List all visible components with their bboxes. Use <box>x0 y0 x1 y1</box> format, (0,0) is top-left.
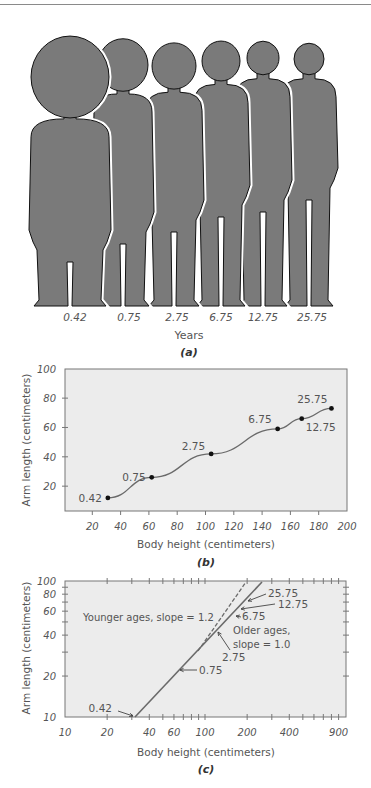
y-tick-label: 40 <box>43 452 56 463</box>
age-label: 2.75 <box>165 311 189 323</box>
panel-b-chart: 20406080100120140160180200204060801000.4… <box>37 364 357 532</box>
age-label: 0.42 <box>63 311 87 323</box>
data-point <box>105 495 110 500</box>
point-label: 6.75 <box>248 413 271 425</box>
panel-a-xlabel: Years <box>173 329 203 342</box>
age-label: 25.75 <box>297 311 327 323</box>
silhouette-age-0.42 <box>29 34 112 306</box>
silhouette-head <box>31 36 109 118</box>
x-tick-label: 400 <box>280 727 299 738</box>
x-tick-label: 120 <box>224 521 243 532</box>
point-label: 0.42 <box>89 702 112 714</box>
silhouette-head <box>247 41 279 75</box>
x-tick-label: 180 <box>309 521 328 532</box>
x-tick-label: 140 <box>253 521 272 532</box>
point-label: 0.75 <box>122 471 145 483</box>
annotation-older-line1: Older ages, <box>233 625 290 636</box>
age-label: 12.75 <box>248 311 278 323</box>
panel-c-xlabel: Body height (centimeters) <box>137 746 275 758</box>
x-tick-label: 900 <box>329 727 348 738</box>
data-point <box>149 475 154 480</box>
point-label: 25.75 <box>268 587 298 599</box>
x-tick-label: 60 <box>143 521 156 532</box>
x-tick-label: 60 <box>168 727 181 738</box>
data-point <box>275 427 280 432</box>
point-label: 0.75 <box>199 664 222 676</box>
data-point <box>299 416 304 421</box>
y-tick-label: 80 <box>43 589 56 600</box>
silhouette-body <box>29 113 111 306</box>
panel-b-plot-area <box>65 369 347 511</box>
silhouette-head <box>152 43 196 89</box>
point-label: 25.75 <box>297 393 327 405</box>
silhouette-head <box>294 43 324 75</box>
x-tick-label: 20 <box>101 727 114 738</box>
data-point <box>329 406 334 411</box>
annotation-younger: Younger ages, slope = 1.2 <box>82 612 214 623</box>
x-tick-label: 160 <box>281 521 300 532</box>
panel-b-ylabel: Arm length (centimeters) <box>20 374 32 507</box>
point-label: 0.42 <box>78 492 101 504</box>
y-tick-label: 10 <box>43 712 56 723</box>
panel-a-age-labels: 0.420.752.756.7512.7525.75 <box>63 311 327 323</box>
y-tick-label: 60 <box>43 606 56 617</box>
y-tick-label: 20 <box>43 671 56 682</box>
x-tick-label: 40 <box>114 521 127 532</box>
x-tick-label: 100 <box>195 727 214 738</box>
y-tick-label: 100 <box>37 576 56 587</box>
panel-b-caption: (b) <box>197 556 215 569</box>
y-tick-label: 60 <box>43 422 56 433</box>
point-label: 12.75 <box>278 598 308 610</box>
panel-c-ylabel: Arm length (centimeters) <box>20 582 32 715</box>
panel-b-xlabel: Body height (centimeters) <box>137 538 275 550</box>
x-tick-label: 200 <box>337 521 356 532</box>
y-tick-label: 100 <box>37 364 56 375</box>
panel-a-caption: (a) <box>180 346 197 359</box>
silhouette-head <box>202 41 240 81</box>
y-tick-label: 40 <box>43 630 56 641</box>
panel-a-silhouettes <box>29 34 339 306</box>
panel-c-chart: 1020406010020040090010204060801000.420.7… <box>37 576 349 738</box>
y-tick-label: 80 <box>43 393 56 404</box>
x-tick-label: 20 <box>86 521 99 532</box>
x-tick-label: 10 <box>59 727 72 738</box>
x-tick-label: 200 <box>238 727 257 738</box>
x-tick-label: 100 <box>196 521 215 532</box>
annotation-older-line2: slope = 1.0 <box>233 639 290 650</box>
point-label: 12.75 <box>306 421 336 433</box>
age-label: 6.75 <box>209 311 233 323</box>
point-label: 2.75 <box>222 651 245 663</box>
age-label: 0.75 <box>117 311 141 323</box>
point-label: 2.75 <box>182 440 205 452</box>
x-tick-label: 80 <box>171 521 184 532</box>
panel-c-caption: (c) <box>198 763 215 776</box>
y-tick-label: 20 <box>43 481 56 492</box>
data-point <box>209 451 214 456</box>
x-tick-label: 40 <box>143 727 156 738</box>
point-label: 6.75 <box>242 610 265 622</box>
figure: 0.420.752.756.7512.7525.75 Years (a) 204… <box>0 0 371 788</box>
